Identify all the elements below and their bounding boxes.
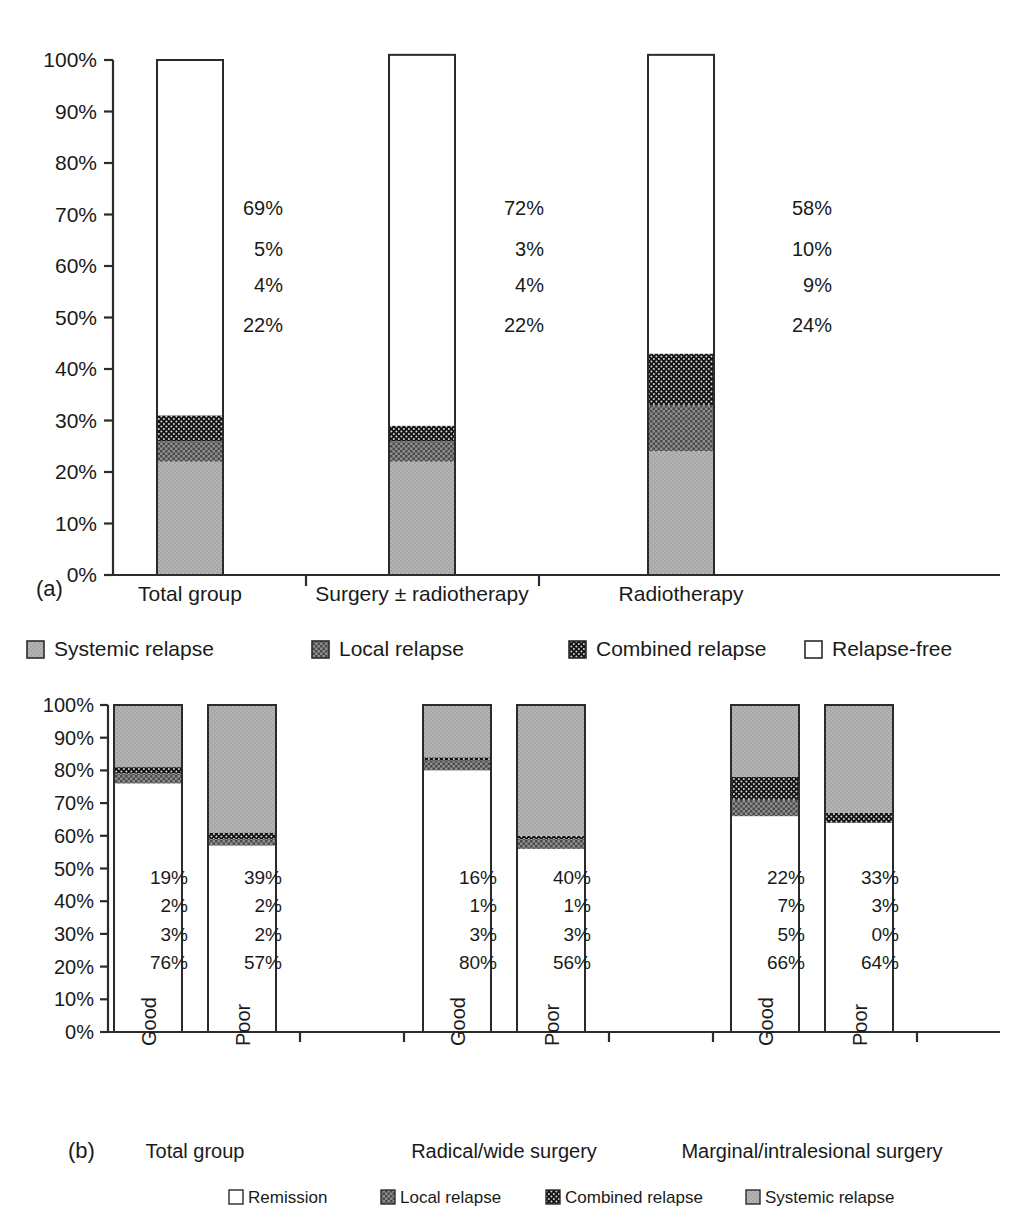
panel-b-value-label: 64%: [861, 952, 899, 973]
panel-a-y-tick-label: 90%: [55, 100, 97, 123]
panel-b-legend-swatch: [746, 1190, 760, 1204]
panel-b-value-label: 1%: [564, 895, 592, 916]
panel-b-y-tick-label: 60%: [54, 825, 94, 847]
panel-a-value-label: 22%: [243, 314, 283, 336]
panel-b-y-tick-label: 100%: [43, 694, 94, 716]
panel-b-legend-label: Combined relapse: [565, 1188, 703, 1207]
panel-b-value-label: 3%: [872, 895, 900, 916]
panel-a-y-tick-label: 50%: [55, 306, 97, 329]
panel-b-bar-segment: [517, 705, 585, 836]
panel-b-value-label: 1%: [470, 895, 498, 916]
panel-b-value-label: 19%: [150, 867, 188, 888]
panel-a-legend: Systemic relapseLocal relapseCombined re…: [27, 637, 952, 660]
panel-a-value-label: 4%: [515, 274, 544, 296]
panel-a-legend-swatch: [569, 641, 586, 658]
panel-a-value-label: 58%: [792, 197, 832, 219]
panel-b-legend-swatch: [229, 1190, 243, 1204]
panel-a-category-label: Surgery ± radiotherapy: [315, 582, 529, 605]
panel-a-legend-label: Local relapse: [339, 637, 464, 660]
panel-a-value-label: 10%: [792, 238, 832, 260]
panel-b-y-tick-label: 80%: [54, 759, 94, 781]
panel-b-bar-segment: [114, 774, 182, 784]
panel-a-bar-segment: [648, 55, 714, 354]
panel-b-y-tick-label: 50%: [54, 858, 94, 880]
panel-b-y-tick-label: 10%: [54, 988, 94, 1010]
panel-a-bar-segment: [389, 441, 455, 462]
panel-b-bar-segment: [825, 813, 893, 823]
panel-b-value-label: 0%: [872, 924, 900, 945]
panel-a-bar-segment: [157, 60, 223, 415]
panel-b-subcategory-label: Poor: [232, 1003, 254, 1046]
panel-b-bar-segment: [423, 761, 491, 771]
panel-b-bar-segment: [517, 836, 585, 839]
panel-b-subcategory-label: Poor: [849, 1003, 871, 1046]
stacked-bar-figure: 0%10%20%30%40%50%60%70%80%90%100%69%5%4%…: [0, 0, 1031, 1228]
panel-a-bar-segment: [157, 441, 223, 462]
panel-a-y-tick-label: 80%: [55, 151, 97, 174]
panel-b-value-label: 5%: [778, 924, 806, 945]
panel-a-bar-segment: [389, 462, 455, 575]
panel-b-y-tick-label: 40%: [54, 890, 94, 912]
panel-b-value-label: 3%: [161, 924, 189, 945]
panel-b-group-label: Marginal/intralesional surgery: [681, 1140, 942, 1162]
panel-a-legend-label: Systemic relapse: [54, 637, 214, 660]
panel-b-bar-segment: [731, 777, 799, 800]
panel-b-legend: RemissionLocal relapseCombined relapseSy…: [229, 1188, 894, 1207]
panel-a-bar-segment: [389, 426, 455, 441]
panel-a-value-label: 22%: [504, 314, 544, 336]
panel-b-value-label: 2%: [255, 924, 283, 945]
panel-a-y-tick-label: 40%: [55, 357, 97, 380]
panel-b-legend-label: Remission: [248, 1188, 327, 1207]
panel-b-group-label: Total group: [146, 1140, 245, 1162]
panel-b-bar-segment: [208, 705, 276, 833]
panel-b-value-label: 66%: [767, 952, 805, 973]
panel-b-y-tick-label: 70%: [54, 792, 94, 814]
panel-b-legend-label: Local relapse: [400, 1188, 501, 1207]
panel-b-value-label: 57%: [244, 952, 282, 973]
panel-a-legend-swatch: [805, 641, 822, 658]
panel-b-bar-segment: [423, 757, 491, 760]
panel-a-value-label: 69%: [243, 197, 283, 219]
panel-b-value-label: 76%: [150, 952, 188, 973]
panel-b-value-label: 39%: [244, 867, 282, 888]
panel-b-tag: (b): [68, 1138, 95, 1163]
panel-b-subcategory-label: Good: [755, 997, 777, 1046]
panel-b-value-label: 80%: [459, 952, 497, 973]
panel-b-y-tick-label: 20%: [54, 956, 94, 978]
panel-a-bar-segment: [157, 415, 223, 441]
panel-b-group-label: Radical/wide surgery: [411, 1140, 597, 1162]
panel-a-bar-segment: [389, 55, 455, 426]
panel-a: 0%10%20%30%40%50%60%70%80%90%100%69%5%4%…: [43, 48, 1000, 605]
panel-b-value-label: 2%: [161, 895, 189, 916]
panel-b-y-tick-label: 90%: [54, 727, 94, 749]
panel-b-subcategory-label: Good: [447, 997, 469, 1046]
panel-b-value-label: 40%: [553, 867, 591, 888]
panel-a-bar-segment: [648, 354, 714, 406]
panel-b-bar-segment: [208, 839, 276, 846]
panel-b-subcategory-label: Poor: [541, 1003, 563, 1046]
panel-a-category-label: Total group: [138, 582, 242, 605]
panel-b-bar-segment: [114, 705, 182, 767]
panel-a-bar-segment: [648, 451, 714, 575]
panel-b: 0%10%20%30%40%50%60%70%80%90%100%19%2%3%…: [43, 694, 1000, 1162]
panel-a-legend-swatch: [27, 641, 44, 658]
panel-a-value-label: 3%: [515, 238, 544, 260]
panel-a-y-tick-label: 10%: [55, 512, 97, 535]
panel-b-value-label: 22%: [767, 867, 805, 888]
panel-b-bar-segment: [731, 705, 799, 777]
panel-b-subcategory-label: Good: [138, 997, 160, 1046]
panel-b-value-label: 2%: [255, 895, 283, 916]
panel-a-value-label: 24%: [792, 314, 832, 336]
panel-a-value-label: 5%: [254, 238, 283, 260]
panel-b-bar-segment: [517, 839, 585, 849]
panel-b-value-label: 3%: [564, 924, 592, 945]
panel-a-y-tick-label: 100%: [43, 48, 97, 71]
figure-container: 0%10%20%30%40%50%60%70%80%90%100%69%5%4%…: [0, 0, 1031, 1228]
panel-a-value-label: 72%: [504, 197, 544, 219]
panel-b-value-label: 56%: [553, 952, 591, 973]
panel-a-bar-segment: [648, 405, 714, 451]
panel-a-value-label: 4%: [254, 274, 283, 296]
panel-a-y-tick-label: 0%: [67, 563, 97, 586]
panel-b-legend-label: Systemic relapse: [765, 1188, 894, 1207]
panel-a-legend-label: Combined relapse: [596, 637, 766, 660]
